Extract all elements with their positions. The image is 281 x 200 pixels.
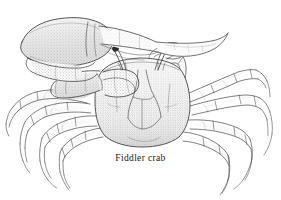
major-cheliped-fixed-finger xyxy=(156,33,228,57)
walking-leg-right-4 xyxy=(183,132,230,195)
figure-panel: Fiddler crab xyxy=(0,0,281,200)
walking-legs-right xyxy=(183,69,272,195)
carapace xyxy=(95,58,190,147)
figure-caption: Fiddler crab xyxy=(0,153,281,163)
walking-legs-left xyxy=(6,90,103,190)
major-cheliped-left xyxy=(21,18,228,100)
major-cheliped-palm xyxy=(21,18,113,67)
fiddler-crab-illustration xyxy=(0,0,281,200)
